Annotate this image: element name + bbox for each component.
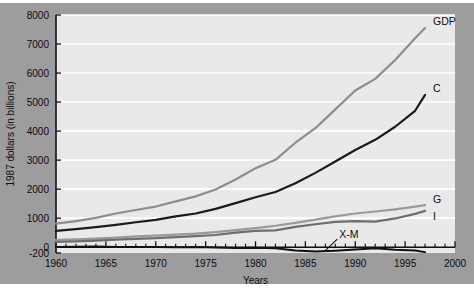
- bottom-white-band: [0, 284, 474, 298]
- series-label-i: I: [433, 210, 436, 222]
- x-tick-label: 1995: [394, 258, 417, 269]
- x-tick-label: 1990: [344, 258, 367, 269]
- y-tick-label: 8000: [27, 10, 50, 21]
- y-tick-label: 5000: [27, 97, 50, 108]
- series-label-gdp: GDP: [433, 15, 456, 27]
- x-tick-label: 1985: [294, 258, 317, 269]
- x-tick-label: 1970: [145, 258, 168, 269]
- y-axis: -200010002000300040005000600070008000: [27, 10, 61, 259]
- x-tick-label: 1960: [45, 258, 68, 269]
- line-chart: -200010002000300040005000600070008000 19…: [0, 3, 474, 287]
- x-tick-label: 1965: [95, 258, 118, 269]
- y-tick-label: 6000: [27, 68, 50, 79]
- x-tick-label: 2000: [444, 258, 467, 269]
- y-tick-label: 3000: [27, 155, 50, 166]
- series-label-g: G: [433, 193, 441, 205]
- y-tick-label: 7000: [27, 39, 50, 50]
- x-tick-label: 1975: [195, 258, 218, 269]
- series-label-c: C: [433, 82, 441, 94]
- series-label-x-m: X-M: [339, 228, 358, 240]
- y-tick-label: 1000: [27, 213, 50, 224]
- y-tick-label: 0: [43, 242, 49, 253]
- x-tick-label: 1980: [244, 258, 267, 269]
- y-tick-label: 2000: [27, 184, 50, 195]
- figure-panel: -200010002000300040005000600070008000 19…: [0, 0, 474, 284]
- y-axis-title: 1987 dollars (in billions): [5, 81, 16, 186]
- y-tick-label: 4000: [27, 126, 50, 137]
- plot-background: [56, 15, 455, 253]
